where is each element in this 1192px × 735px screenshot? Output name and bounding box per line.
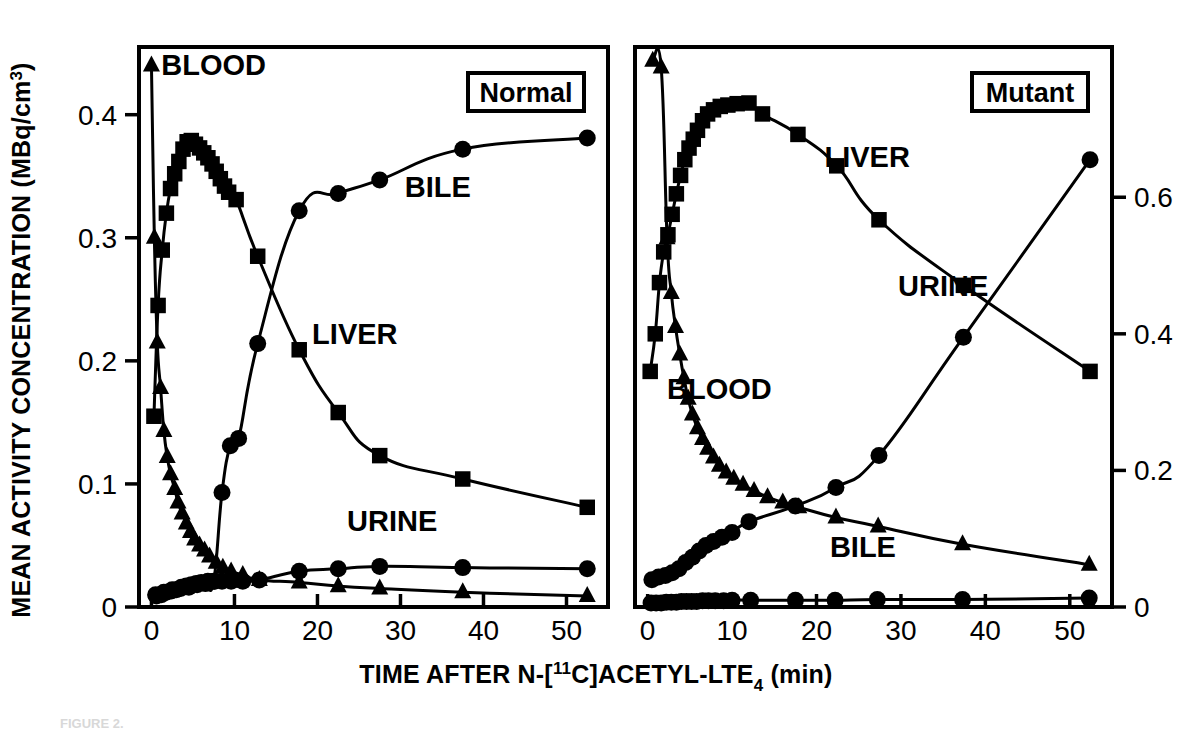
data-point-liver [579, 500, 595, 516]
data-point-urine [291, 563, 308, 580]
y-axis-title-close: ) [7, 62, 35, 71]
data-point-blood [579, 586, 596, 602]
panel-tag-right: Mutant [986, 78, 1074, 108]
data-point-urine [330, 560, 347, 577]
data-point-liver [669, 186, 685, 202]
data-point-bile [249, 335, 266, 352]
data-point-urine [955, 329, 972, 346]
data-point-bile [214, 484, 231, 501]
data-point-urine [371, 558, 388, 575]
data-point-blood [671, 344, 688, 360]
data-point-blood [146, 228, 163, 244]
x-tick-label: 20 [801, 615, 832, 646]
data-point-liver [1082, 364, 1098, 380]
x-tick-label: 50 [551, 615, 582, 646]
series-line-blood [653, 49, 1089, 565]
series-line-urine [652, 160, 1090, 580]
data-point-urine [1082, 151, 1099, 168]
x-tick-label: 50 [1054, 615, 1085, 646]
data-point-liver [871, 212, 887, 228]
series-label-urine: URINE [347, 505, 437, 537]
data-point-blood [371, 579, 388, 595]
data-point-blood [667, 317, 684, 333]
series-label-blood: BLOOD [667, 373, 772, 405]
data-point-urine [454, 559, 471, 576]
figure-container: 0102030405000.10.20.30.4BLOODLIVERBILEUR… [0, 0, 1192, 735]
x-axis-title-superscript: 11 [553, 659, 571, 678]
y-tick-label: 0.1 [78, 469, 117, 500]
panel-tag-left: Normal [479, 78, 572, 108]
data-point-urine [579, 560, 596, 577]
data-point-liver [330, 405, 346, 421]
data-point-urine [787, 497, 804, 514]
x-tick-label: 10 [717, 615, 748, 646]
data-point-bile [724, 592, 741, 609]
x-axis-title-part3: (min) [763, 660, 832, 688]
data-point-urine [827, 479, 844, 496]
x-axis-title-part2: C]ACETYL-LTE [571, 660, 753, 688]
series-blood [644, 49, 1097, 571]
data-point-blood [166, 479, 183, 495]
data-point-liver [372, 448, 388, 464]
data-point-liver [150, 298, 166, 314]
data-point-bile [1081, 590, 1098, 607]
x-axis-title-part1: TIME AFTER N-[ [359, 660, 553, 688]
data-point-bile [371, 171, 388, 188]
series-label-blood: BLOOD [161, 49, 266, 81]
data-point-liver [291, 342, 307, 358]
y-tick-label: 0.6 [1134, 182, 1173, 213]
y-tick-label: 0.2 [1134, 455, 1173, 486]
x-tick-label: 0 [640, 615, 656, 646]
x-tick-label: 10 [219, 615, 250, 646]
data-point-bile [869, 591, 886, 608]
data-point-liver [648, 326, 664, 342]
y-tick-label: 0 [101, 592, 117, 623]
data-point-urine [724, 524, 741, 541]
x-tick-label: 40 [970, 615, 1001, 646]
y-axis-title-text: MEAN ACTIVITY CONCENTRATION (MBq/cm3) [7, 62, 35, 617]
data-point-bile [579, 130, 596, 147]
y-axis-title-main: MEAN ACTIVITY CONCENTRATION (MBq/cm [7, 81, 35, 618]
data-point-blood [454, 582, 471, 598]
x-tick-label: 30 [885, 615, 916, 646]
data-point-liver [163, 181, 179, 197]
data-point-liver [146, 408, 162, 424]
y-tick-label: 0.4 [1134, 319, 1173, 350]
data-point-bile [827, 592, 844, 609]
series-label-urine: URINE [898, 270, 988, 302]
x-tick-label: 0 [144, 615, 160, 646]
series-liver [642, 95, 1097, 379]
axis-frame [635, 47, 1112, 607]
y-tick-label: 0.3 [78, 223, 117, 254]
panel-left: 0102030405000.10.20.30.4BLOODLIVERBILEUR… [78, 47, 608, 646]
data-point-liver [250, 248, 265, 264]
data-point-liver [660, 227, 676, 243]
data-point-liver [154, 242, 170, 257]
x-tick-label: 40 [468, 615, 499, 646]
data-point-blood [143, 56, 160, 72]
figure-caption: FIGURE 2. [60, 716, 124, 731]
y-tick-label: 0.2 [78, 346, 117, 377]
data-point-bile [954, 591, 971, 608]
data-point-liver [664, 207, 680, 223]
data-point-liver [656, 244, 672, 260]
data-point-bile [230, 430, 247, 447]
data-point-urine [870, 447, 887, 464]
data-point-liver [455, 471, 471, 487]
series-label-liver: LIVER [824, 141, 909, 173]
data-point-liver [741, 95, 757, 111]
data-point-blood [162, 464, 179, 480]
data-point-bile [742, 592, 759, 609]
panel-right: 0102030405000.20.40.6BLOODLIVERURINEBILE… [635, 47, 1173, 646]
x-tick-label: 20 [302, 615, 333, 646]
y-tick-label: 0 [1134, 592, 1150, 623]
data-point-urine [740, 513, 757, 530]
pharmacokinetics-figure: 0102030405000.10.20.30.4BLOODLIVERBILEUR… [0, 0, 1192, 735]
data-point-liver [652, 275, 668, 291]
x-axis-title-subscript: 4 [754, 676, 764, 695]
data-point-liver [755, 106, 771, 122]
data-point-bile [330, 185, 347, 202]
data-point-liver [159, 205, 175, 221]
data-point-bile [454, 141, 471, 158]
y-axis-title-superscript: 3 [7, 71, 26, 81]
